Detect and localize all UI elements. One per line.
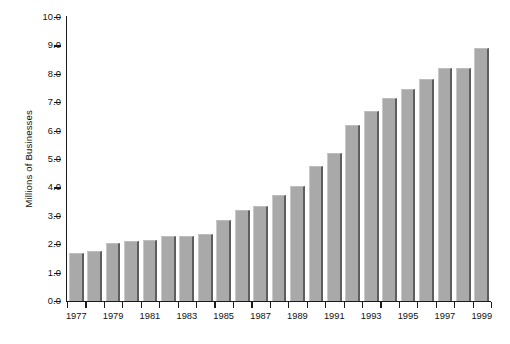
x-axis-tick-label: 1981 — [140, 311, 161, 321]
x-axis-tick — [307, 302, 308, 308]
x-axis-tick-label: 1991 — [324, 311, 345, 321]
x-axis-tick — [159, 302, 160, 308]
bar — [438, 68, 453, 301]
x-axis-tick-labels: 1977197919811983198519871989199119931995… — [67, 311, 491, 325]
bar — [161, 236, 176, 301]
y-axis-tick-label: 10.0 — [43, 12, 62, 22]
y-axis-tick-label: 0.0 — [48, 296, 61, 306]
x-axis-tick — [178, 302, 179, 308]
x-axis-tick — [196, 302, 197, 308]
x-axis-tick — [214, 302, 215, 308]
x-axis-tick-label: 1989 — [287, 311, 308, 321]
bar — [382, 98, 397, 301]
x-axis-tick-label: 1983 — [176, 311, 197, 321]
y-axis-tick-labels: 10.09.08.07.06.05.04.03.02.01.00.0 — [0, 17, 61, 301]
bar — [456, 68, 471, 301]
x-axis-tick-label: 1997 — [435, 311, 456, 321]
x-axis-tick — [85, 302, 86, 308]
bar — [345, 125, 360, 301]
bar — [290, 186, 305, 301]
x-axis-tick-label: 1985 — [213, 311, 234, 321]
x-axis-tick-label: 1979 — [103, 311, 124, 321]
bar — [198, 234, 213, 301]
y-axis-tick-label: 4.0 — [48, 182, 61, 192]
x-axis-tick — [436, 302, 437, 308]
bar — [474, 48, 489, 301]
bar — [419, 79, 434, 301]
y-axis-tick-label: 6.0 — [48, 126, 61, 136]
x-axis-tick — [454, 302, 455, 308]
y-axis-tick-label: 2.0 — [48, 239, 61, 249]
y-axis-tick-label: 3.0 — [48, 211, 61, 221]
x-axis-tick — [399, 302, 400, 308]
bar — [87, 251, 102, 301]
bar — [106, 243, 121, 301]
y-axis-tick-label: 9.0 — [48, 40, 61, 50]
bar — [401, 89, 416, 301]
x-axis-tick — [344, 302, 345, 308]
x-axis-tick-label: 1977 — [66, 311, 87, 321]
bar — [364, 111, 379, 301]
x-axis-tick — [270, 302, 271, 308]
bar — [235, 210, 250, 301]
x-axis-tick — [233, 302, 234, 308]
y-axis-tick-label: 7.0 — [48, 97, 61, 107]
bar — [179, 236, 194, 301]
y-axis-tick-label: 8.0 — [48, 69, 61, 79]
plot-area — [67, 17, 491, 301]
x-axis-tick — [380, 302, 381, 308]
bar — [327, 153, 342, 301]
bar — [69, 253, 84, 301]
x-axis-tick — [104, 302, 105, 308]
x-axis-tick — [417, 302, 418, 308]
bar — [143, 240, 158, 301]
y-axis-tick-label: 5.0 — [48, 154, 61, 164]
x-axis-tick — [325, 302, 326, 308]
x-axis-ticks — [67, 302, 491, 309]
bar — [216, 220, 231, 301]
x-axis-tick — [251, 302, 252, 308]
bar — [124, 241, 139, 301]
x-axis-tick-label: 1995 — [398, 311, 419, 321]
x-axis-tick-label: 1999 — [471, 311, 492, 321]
x-axis-tick — [288, 302, 289, 308]
x-axis-tick — [122, 302, 123, 308]
x-axis-tick-label: 1987 — [250, 311, 271, 321]
bar-chart: Millions of Businesses 10.09.08.07.06.05… — [0, 0, 510, 344]
x-axis-tick — [491, 302, 492, 308]
bar — [253, 206, 268, 301]
x-axis-tick — [67, 302, 68, 308]
x-axis-tick — [141, 302, 142, 308]
y-axis-tick-label: 1.0 — [48, 268, 61, 278]
bar — [272, 195, 287, 302]
x-axis-tick — [473, 302, 474, 308]
x-axis-tick — [362, 302, 363, 308]
x-axis-tick-label: 1993 — [361, 311, 382, 321]
bar — [309, 166, 324, 301]
